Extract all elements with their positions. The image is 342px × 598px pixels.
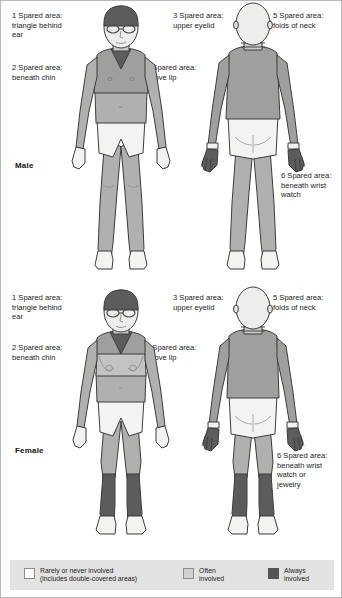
legend-item-always: Always involved [268,567,309,584]
legend-label-rarely-never: Rarely or never involved (includes doubl… [40,567,137,584]
female-back-figure [199,292,307,542]
legend-swatch-always [268,568,279,579]
diagram-frame: Male 1 Spared area: triangle behind ear … [0,0,342,598]
legend-swatch-often [183,568,194,579]
male-front-figure [67,7,175,275]
male-section: Male 1 Spared area: triangle behind ear … [1,1,342,286]
sex-label-female: Female [15,446,44,455]
legend-item-rarely-never: Rarely or never involved (includes doubl… [24,567,137,584]
male-back-figure [199,7,307,275]
legend-label-always: Always involved [284,567,309,584]
legend-item-often: Often involved [183,567,224,584]
legend-label-often: Often involved [199,567,224,584]
sex-label-male: Male [15,161,34,170]
female-section: Female 1 Spared area: triangle behind ea… [1,286,342,548]
female-front-figure [67,292,175,542]
legend: Rarely or never involved (includes doubl… [10,560,334,590]
legend-swatch-rarely-never [24,568,35,579]
